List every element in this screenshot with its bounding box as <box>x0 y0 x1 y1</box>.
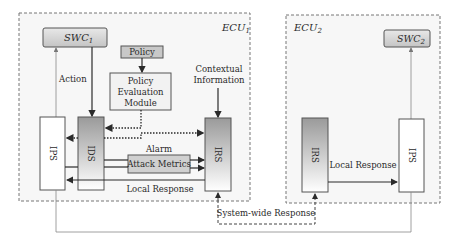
local-response-label-ecu1: Local Response <box>126 184 193 194</box>
irs2-label: IRS <box>310 147 320 163</box>
pem-label-line3: Module <box>124 98 157 108</box>
contextual-info-line1: Contextual <box>195 64 242 74</box>
attack-metrics-label: Attack Metrics <box>126 159 191 169</box>
system-wide-response-label: System-wide Response <box>217 208 316 218</box>
contextual-info-line2: Information <box>193 75 245 85</box>
ids-label: IDS <box>86 146 96 162</box>
irs1-label: IRS <box>213 147 223 163</box>
pem-label-line2: Evaluation <box>117 87 164 97</box>
local-response-label-ecu2: Local Response <box>329 160 396 170</box>
alarm-label: Alarm <box>145 144 172 154</box>
ips1-label: IPS <box>48 146 58 161</box>
ids-architecture-diagram: ECU1 ECU2 SWC1 Policy Policy Evaluation … <box>0 0 460 245</box>
action-label: Action <box>58 74 87 84</box>
policy-label: Policy <box>129 47 155 57</box>
ips2-label: IPS <box>407 148 417 163</box>
pem-label-line1: Policy <box>128 76 154 86</box>
